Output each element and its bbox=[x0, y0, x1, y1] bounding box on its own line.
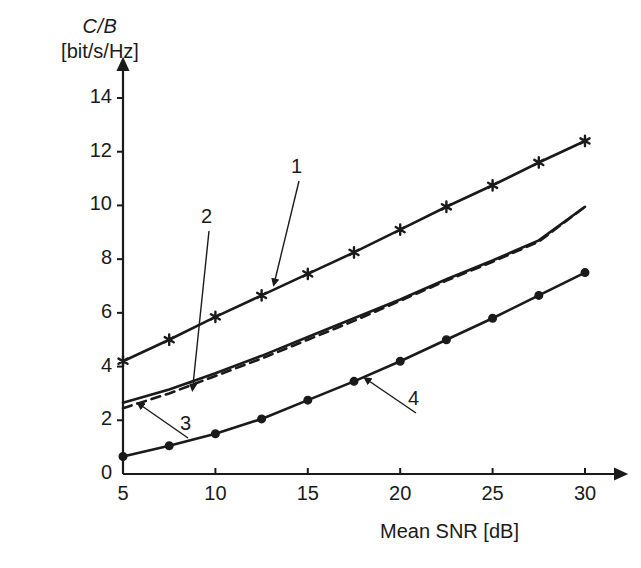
x-tick-label-10: 10 bbox=[190, 482, 240, 505]
annotation-arrow-2 bbox=[193, 231, 209, 385]
y-tick-label-12: 12 bbox=[60, 139, 112, 162]
marker-circle bbox=[304, 396, 312, 404]
marker-circle bbox=[165, 442, 173, 450]
marker-circle bbox=[581, 269, 589, 277]
marker-star bbox=[165, 335, 174, 345]
marker-circle bbox=[443, 336, 451, 344]
curve-2 bbox=[123, 207, 585, 403]
curve-4 bbox=[123, 273, 585, 457]
marker-star bbox=[442, 202, 451, 212]
chart-figure: C/B [bit/s/Hz] 02468101214 51015202530 1… bbox=[0, 0, 641, 568]
marker-circle bbox=[535, 292, 543, 300]
x-axis-title: Mean SNR [dB] bbox=[380, 520, 519, 543]
marker-star bbox=[303, 269, 312, 279]
curve-label-4: 4 bbox=[408, 387, 419, 410]
marker-circle bbox=[258, 415, 266, 423]
y-tick-label-6: 6 bbox=[60, 300, 112, 323]
marker-star bbox=[534, 157, 543, 167]
marker-circle bbox=[119, 453, 127, 461]
curve-label-2: 2 bbox=[201, 205, 212, 228]
x-tick-label-5: 5 bbox=[98, 482, 148, 505]
marker-star bbox=[581, 136, 590, 146]
marker-circle bbox=[489, 314, 497, 322]
annotation-arrow-1 bbox=[275, 181, 299, 280]
marker-star bbox=[257, 290, 266, 300]
marker-star bbox=[350, 247, 359, 257]
y-tick-label-2: 2 bbox=[60, 407, 112, 430]
marker-star bbox=[211, 312, 220, 322]
marker-star bbox=[488, 180, 497, 190]
curve-label-3: 3 bbox=[180, 412, 191, 435]
y-tick-label-14: 14 bbox=[60, 85, 112, 108]
y-tick-label-0: 0 bbox=[60, 461, 112, 484]
y-tick-label-4: 4 bbox=[60, 354, 112, 377]
marker-circle bbox=[212, 430, 220, 438]
x-tick-label-15: 15 bbox=[283, 482, 333, 505]
x-tick-label-25: 25 bbox=[468, 482, 518, 505]
x-tick-label-20: 20 bbox=[375, 482, 425, 505]
marker-star bbox=[119, 356, 128, 366]
marker-star bbox=[396, 224, 405, 234]
curve-label-1: 1 bbox=[291, 155, 302, 178]
marker-circle bbox=[350, 378, 358, 386]
axes-group bbox=[117, 70, 615, 475]
marker-circle bbox=[396, 357, 404, 365]
x-tick-label-30: 30 bbox=[560, 482, 610, 505]
y-tick-label-10: 10 bbox=[60, 192, 112, 215]
curves-group bbox=[123, 141, 585, 457]
y-tick-label-8: 8 bbox=[60, 246, 112, 269]
